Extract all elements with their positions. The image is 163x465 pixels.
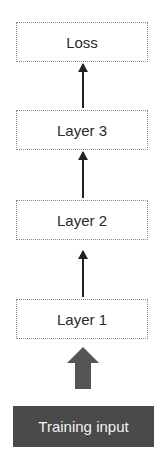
layer1-label: Layer 1 [57, 311, 107, 328]
layer2-label: Layer 2 [57, 212, 107, 229]
layer3-box: Layer 3 [16, 110, 148, 150]
loss-box: Loss [16, 22, 148, 62]
training-input-label: Training input [38, 418, 128, 435]
training-input-box: Training input [13, 406, 154, 447]
loss-label: Loss [66, 34, 98, 51]
layer1-box: Layer 1 [16, 299, 148, 339]
block-arrow-up-icon [66, 346, 100, 390]
layer3-label: Layer 3 [57, 122, 107, 139]
arrow-layer1-to-layer2 [82, 251, 84, 297]
arrow-layer3-to-loss [82, 64, 84, 108]
arrow-layer2-to-layer3 [82, 152, 84, 198]
layer2-box: Layer 2 [16, 200, 148, 240]
